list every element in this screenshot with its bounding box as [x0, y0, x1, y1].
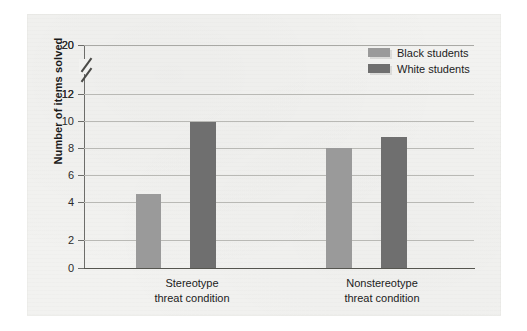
legend-swatch-white-students — [368, 64, 390, 73]
legend-item-white-students: White students — [368, 62, 480, 75]
y-axis-label-20: 20 — [48, 40, 74, 51]
plot-area — [84, 45, 474, 268]
y-tick-0 — [78, 268, 84, 269]
gridline-10 — [84, 121, 474, 122]
y-tick-12 — [78, 94, 84, 95]
y-tick-6 — [78, 175, 84, 176]
y-tick-8 — [78, 148, 84, 149]
bar-stereotype-white-students — [190, 122, 216, 268]
gridline-8 — [84, 148, 474, 149]
legend-label-white-students: White students — [397, 63, 470, 75]
y-axis-label-8: 8 — [48, 143, 74, 154]
bar-nonstereotype-black-students — [326, 148, 352, 268]
legend-item-black-students: Black students — [368, 46, 480, 59]
bar-nonstereotype-white-students — [381, 137, 407, 268]
category-label-line2: threat condition — [112, 291, 272, 306]
y-axis-label-2: 2 — [48, 235, 74, 246]
category-label-line1: Nonstereotype — [302, 276, 462, 291]
bar-fill — [381, 137, 407, 268]
x-axis-category-stereotype: Stereotype threat condition — [112, 276, 272, 305]
category-label-line1: Stereotype — [112, 276, 272, 291]
chart-legend: Black students White students — [368, 46, 480, 78]
bar-fill — [190, 122, 216, 268]
y-axis-label-4: 4 — [48, 197, 74, 208]
bar-fill — [136, 194, 161, 268]
y-tick-10 — [78, 121, 84, 122]
y-axis-label-6: 6 — [48, 170, 74, 181]
y-axis-label-10: 10 — [48, 116, 74, 127]
y-tick-20 — [78, 45, 84, 46]
bar-stereotype-black-students — [136, 194, 161, 268]
x-axis-category-nonstereotype: Nonstereotype threat condition — [302, 276, 462, 305]
y-tick-4 — [78, 202, 84, 203]
bar-fill — [326, 148, 352, 268]
category-label-line2: threat condition — [302, 291, 462, 306]
legend-label-black-students: Black students — [397, 47, 469, 59]
x-axis-line — [84, 268, 475, 269]
y-axis-label-0: 0 — [48, 263, 74, 274]
legend-swatch-black-students — [368, 48, 390, 57]
y-tick-2 — [78, 240, 84, 241]
gridline-12 — [84, 94, 474, 95]
figure-page: Number of items solved 20 12 — [0, 0, 527, 331]
gridline-6 — [84, 175, 474, 176]
y-axis-label-12: 12 — [48, 89, 74, 100]
